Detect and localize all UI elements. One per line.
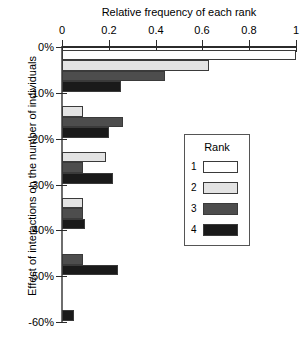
chart-figure: Relative frequency of each rank Effect o… xyxy=(0,0,306,341)
x-tick-label: 0.4 xyxy=(148,24,163,36)
y-tick xyxy=(56,322,67,323)
y-tick xyxy=(56,230,67,231)
y-tick-label: -40% xyxy=(28,224,54,236)
x-tick-label: 0 xyxy=(59,24,65,36)
legend-item: 1 xyxy=(191,159,245,174)
x-tick-label: 0.2 xyxy=(101,24,116,36)
y-tick xyxy=(56,93,67,94)
y-tick-label: -20% xyxy=(28,133,54,145)
bar xyxy=(62,162,83,173)
y-tick-label: 0% xyxy=(38,41,54,53)
legend-item-swatch xyxy=(203,182,238,194)
y-tick xyxy=(56,139,67,140)
y-tick xyxy=(56,185,67,186)
x-tick xyxy=(296,40,297,52)
bar xyxy=(62,208,83,219)
bar xyxy=(62,198,83,209)
legend-item-swatch xyxy=(203,224,238,236)
legend-item: 2 xyxy=(191,180,245,195)
bar xyxy=(62,50,296,61)
x-tick-label: 1 xyxy=(293,24,299,36)
legend-item-label: 2 xyxy=(191,182,203,193)
y-tick-label: -60% xyxy=(28,316,54,328)
bar xyxy=(62,173,113,184)
bar xyxy=(62,71,165,82)
legend-item: 3 xyxy=(191,201,245,216)
legend: Rank 1234 xyxy=(184,134,250,246)
bar xyxy=(62,310,74,321)
bar xyxy=(62,254,83,265)
bar xyxy=(62,219,85,230)
bar xyxy=(62,117,123,128)
legend-item: 4 xyxy=(191,222,245,237)
bar xyxy=(62,265,118,276)
y-tick xyxy=(56,47,67,48)
legend-item-swatch xyxy=(203,203,238,215)
legend-item-swatch xyxy=(203,161,238,173)
legend-item-label: 1 xyxy=(191,161,203,172)
y-tick-label: -30% xyxy=(28,179,54,191)
x-tick-label: 0.8 xyxy=(241,24,256,36)
bar xyxy=(62,106,83,117)
legend-item-label: 4 xyxy=(191,224,203,235)
y-tick-label: -50% xyxy=(28,270,54,282)
legend-item-label: 3 xyxy=(191,203,203,214)
y-tick-label: -10% xyxy=(28,87,54,99)
bar xyxy=(62,127,109,138)
y-tick xyxy=(56,276,67,277)
bar xyxy=(62,81,121,92)
x-tick-label: 0.6 xyxy=(194,24,209,36)
x-axis-line xyxy=(62,46,296,48)
caption-sliver xyxy=(4,332,302,341)
bar xyxy=(62,152,106,163)
x-axis-title: Relative frequency of each rank xyxy=(62,6,296,19)
bar xyxy=(62,60,209,71)
legend-title: Rank xyxy=(185,141,249,153)
